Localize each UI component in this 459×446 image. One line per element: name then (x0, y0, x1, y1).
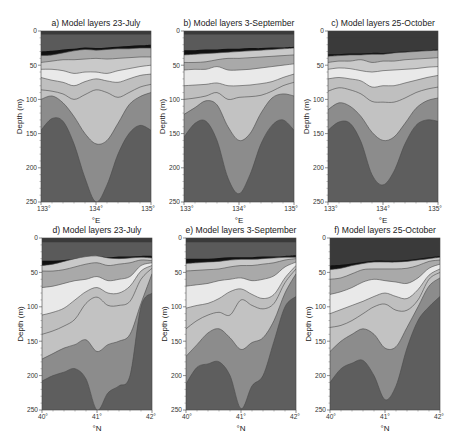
x-tick-label: 40° (326, 413, 336, 420)
panel-title: d) Model layers 23-July (53, 225, 143, 235)
y-tick-label: 200 (313, 164, 324, 171)
panel-b: b) Model layers 3-September0501001502002… (158, 18, 298, 225)
y-tick-label: 150 (313, 130, 324, 137)
y-tick-label: 100 (169, 96, 180, 103)
y-tick-label: 150 (26, 130, 37, 137)
y-axis-label: Depth (m) (302, 98, 311, 134)
layer-fills (326, 31, 440, 204)
panel-title: c) Model layers 25-October (331, 18, 435, 28)
x-tick-label: 42° (290, 413, 300, 420)
panel-title: f) Model layers 25-October (334, 225, 436, 235)
x-axis-label: °E (92, 216, 101, 225)
y-tick-label: 200 (315, 372, 326, 379)
y-tick-label: 250 (313, 198, 324, 205)
x-tick-label: 133° (324, 205, 338, 212)
y-tick-label: 150 (27, 338, 38, 345)
layer-fills (182, 31, 296, 204)
x-tick-label: 41° (236, 413, 246, 420)
x-axis-label: °N (381, 424, 390, 433)
y-tick-label: 200 (27, 372, 38, 379)
x-axis-label: °N (237, 424, 246, 433)
panel-title: b) Model layers 3-September (184, 18, 295, 28)
y-axis-label: Depth (m) (160, 306, 169, 342)
x-tick-label: 133° (37, 205, 51, 212)
y-tick-label: 100 (27, 303, 38, 310)
y-tick-label: 50 (175, 269, 183, 276)
y-tick-label: 0 (322, 234, 326, 241)
x-tick-label: 134° (89, 205, 103, 212)
y-tick-label: 100 (313, 96, 324, 103)
x-axis-label: °N (93, 424, 102, 433)
x-tick-label: 40° (182, 413, 192, 420)
y-tick-label: 250 (171, 406, 182, 413)
panel-title: a) Model layers 23-July (52, 18, 142, 28)
y-tick-label: 50 (30, 62, 38, 69)
x-tick-label: 134° (376, 205, 390, 212)
y-tick-label: 250 (169, 198, 180, 205)
y-tick-label: 0 (33, 27, 37, 34)
y-axis-label: Depth (m) (15, 98, 24, 134)
y-tick-label: 0 (320, 27, 324, 34)
y-tick-label: 50 (31, 269, 39, 276)
figure-canvas: a) Model layers 23-July050100150200250De… (0, 0, 459, 446)
layer-fills (39, 31, 153, 204)
y-tick-label: 200 (169, 164, 180, 171)
x-tick-label: 42° (434, 413, 444, 420)
x-tick-label: 40° (38, 413, 48, 420)
y-tick-label: 100 (171, 303, 182, 310)
x-tick-label: 135° (141, 205, 155, 212)
panel-f: f) Model layers 25-October05010015020025… (304, 225, 444, 433)
y-tick-label: 200 (26, 164, 37, 171)
y-tick-label: 150 (171, 338, 182, 345)
y-tick-label: 250 (26, 198, 37, 205)
y-tick-label: 250 (315, 406, 326, 413)
panel-c: c) Model layers 25-October05010015020025… (302, 18, 442, 225)
x-tick-label: 42° (146, 413, 156, 420)
y-axis-label: Depth (m) (304, 306, 313, 342)
y-tick-label: 50 (317, 62, 325, 69)
y-tick-label: 250 (27, 406, 38, 413)
layer-fills (328, 238, 442, 412)
panel-title: e) Model layers 3-September (186, 225, 297, 235)
x-tick-label: 134° (232, 205, 246, 212)
y-axis-label: Depth (m) (16, 306, 25, 342)
panel-d: d) Model layers 23-July050100150200250De… (16, 225, 156, 433)
y-tick-label: 150 (169, 130, 180, 137)
x-axis-label: °E (379, 216, 388, 225)
x-tick-label: 135° (428, 205, 442, 212)
layer-fills (184, 238, 298, 412)
y-tick-label: 0 (178, 234, 182, 241)
y-tick-label: 150 (315, 338, 326, 345)
y-tick-label: 100 (315, 303, 326, 310)
y-tick-label: 50 (173, 62, 181, 69)
y-tick-label: 100 (26, 96, 37, 103)
y-tick-label: 0 (34, 234, 38, 241)
y-tick-label: 200 (171, 372, 182, 379)
y-tick-label: 0 (176, 27, 180, 34)
y-axis-label: Depth (m) (158, 98, 167, 134)
panel-a: a) Model layers 23-July050100150200250De… (15, 18, 155, 225)
x-tick-label: 135° (284, 205, 298, 212)
x-tick-label: 41° (92, 413, 102, 420)
x-tick-label: 41° (380, 413, 390, 420)
layer-fills (40, 238, 154, 412)
x-axis-label: °E (235, 216, 244, 225)
panel-e: e) Model layers 3-September0501001502002… (160, 225, 300, 433)
x-tick-label: 133° (180, 205, 194, 212)
y-tick-label: 50 (319, 269, 327, 276)
